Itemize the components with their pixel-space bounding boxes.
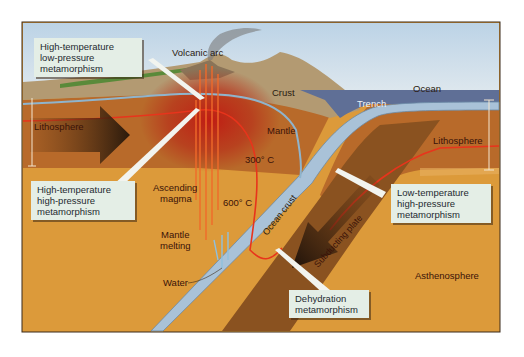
label-volcanic-arc: Volcanic arc (172, 47, 223, 58)
callout-dehydration: Dehydration metamorphism (289, 290, 369, 318)
label-mantle-melting-1: Mantle (161, 229, 190, 240)
callout-line: metamorphism (40, 63, 136, 74)
label-ascending-magma-2: magma (160, 193, 192, 204)
callout-high-temp-high-pressure: High-temperature high-pressure metamorph… (31, 181, 135, 220)
label-mantle-melting-2: melting (160, 240, 191, 251)
callout-line: metamorphism (397, 209, 485, 220)
label-asthenosphere: Asthenosphere (415, 270, 479, 281)
label-lithosphere-right: Lithosphere (433, 135, 483, 146)
callout-line: high-pressure (397, 198, 485, 209)
label-crust: Crust (272, 87, 295, 98)
label-mantle: Mantle (267, 125, 296, 136)
callout-line: Low-temperature (397, 187, 485, 198)
callout-line: metamorphism (295, 304, 363, 315)
callout-line: high-pressure (37, 195, 129, 206)
label-water: Water (163, 277, 188, 288)
callout-line: High-temperature (40, 41, 136, 52)
label-temp-600: 600° C (223, 197, 252, 208)
label-temp-300: 300° C (245, 154, 274, 165)
label-ocean: Ocean (413, 83, 441, 94)
callout-line: low-pressure (40, 52, 136, 63)
callout-line: Dehydration (295, 293, 363, 304)
callout-line: High-temperature (37, 184, 129, 195)
label-lithosphere-left: Lithosphere (34, 121, 84, 132)
callout-low-temp-high-pressure: Low-temperature high-pressure metamorphi… (391, 184, 491, 223)
callout-line: metamorphism (37, 206, 129, 217)
callout-high-temp-low-pressure: High-temperature low-pressure metamorphi… (34, 38, 142, 77)
label-trench: Trench (357, 98, 386, 109)
label-ascending-magma-1: Ascending (153, 182, 197, 193)
